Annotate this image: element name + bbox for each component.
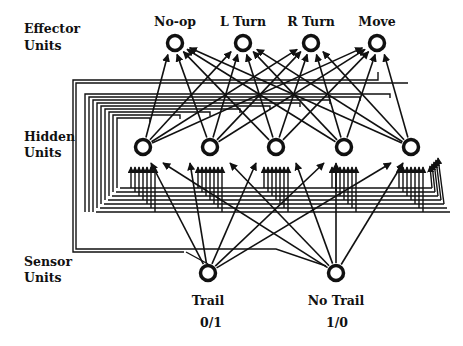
sensor-value-trail: 0/1 — [200, 315, 222, 330]
hidden-to-effector-connection — [190, 48, 402, 143]
recurrent-arrow-right — [430, 166, 432, 188]
hidden-to-effector-connection — [384, 54, 408, 137]
effector-unit-node — [168, 36, 183, 51]
effector-label-lturn: L Turn — [220, 14, 266, 29]
hidden-unit-node — [203, 140, 218, 155]
sensor-label-notrail: No Trail — [308, 293, 365, 308]
hidden-to-effector-connection — [150, 52, 231, 140]
recurrent-frame — [89, 97, 360, 212]
effector-unit-node — [236, 36, 251, 51]
sensor-value-notrail: 1/0 — [326, 315, 348, 330]
sensor-to-hidden-connection — [341, 163, 403, 264]
sensor-to-hidden-connection — [296, 163, 333, 264]
hidden-layer-label: Hidden — [24, 129, 75, 144]
network-diagram: Effector Units Hidden Units Sensor Units… — [0, 0, 463, 346]
sensor-to-hidden-connection — [215, 163, 324, 266]
hidden-unit-node — [337, 140, 352, 155]
effector-layer-label: Effector — [24, 21, 80, 36]
sensor-label-trail: Trail — [192, 293, 225, 308]
hidden-unit-node — [136, 140, 151, 155]
connections — [146, 48, 408, 268]
effector-label-move: Move — [358, 14, 395, 29]
recurrent-frame — [105, 109, 240, 200]
effector-layer-label-2: Units — [24, 38, 62, 53]
effector-unit-node — [304, 36, 319, 51]
hidden-unit-node — [404, 140, 419, 155]
sensor-layer-label: Sensor — [24, 254, 72, 269]
units — [136, 36, 419, 281]
hidden-to-effector-connection — [218, 49, 365, 141]
outer-loop — [76, 83, 408, 249]
hidden-to-effector-connection — [187, 49, 335, 141]
sensor-unit-node — [329, 266, 344, 281]
outer-loop — [73, 72, 378, 252]
network-svg: Effector Units Hidden Units Sensor Units… — [0, 0, 463, 346]
effector-label-rturn: R Turn — [287, 14, 335, 29]
effector-unit-node — [370, 36, 385, 51]
sensor-unit-node — [201, 266, 216, 281]
hidden-layer-label-2: Units — [24, 145, 62, 160]
outer-loop-tail — [190, 249, 326, 266]
hidden-unit-node — [269, 140, 284, 155]
sensor-layer-label-2: Units — [24, 270, 62, 285]
effector-label-noop: No-op — [154, 14, 196, 29]
